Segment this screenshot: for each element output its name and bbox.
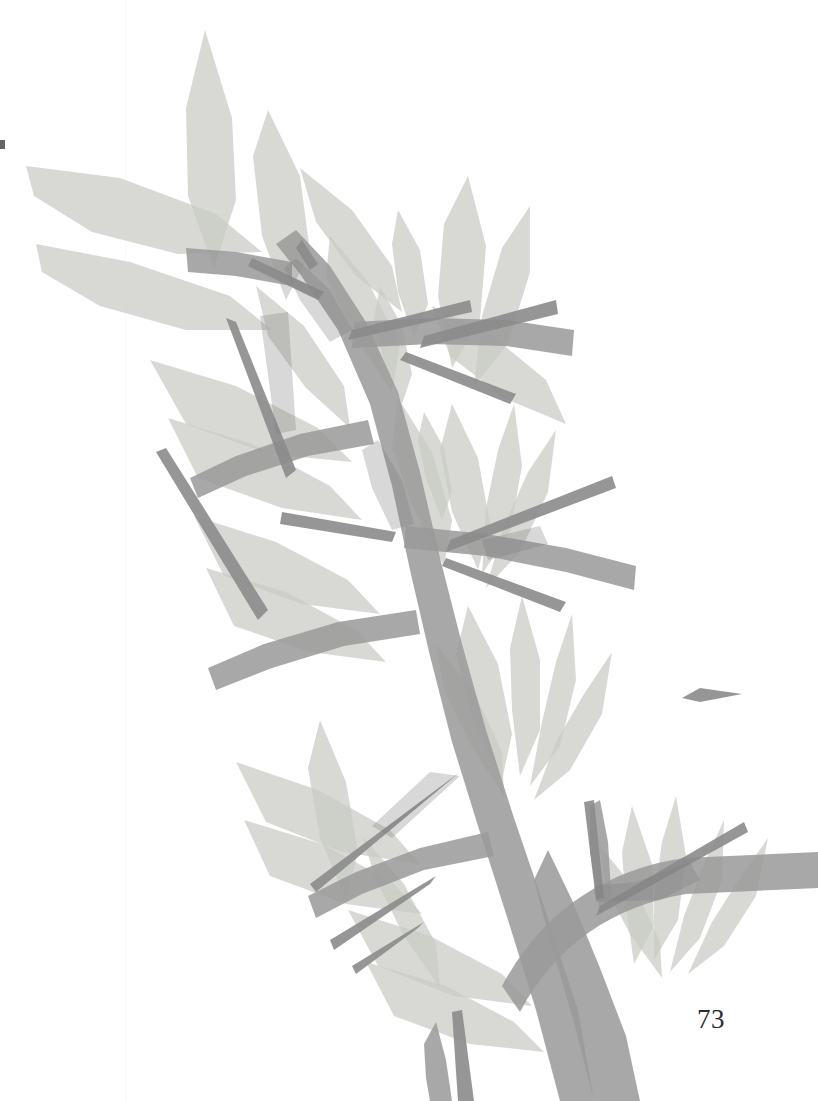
overlap-accent (372, 772, 460, 838)
leaf (510, 596, 540, 776)
thorn (280, 512, 396, 542)
branch-illustration (0, 0, 818, 1101)
page-number: 73 (697, 1006, 725, 1033)
scan-artifact-speck (0, 140, 5, 149)
scanned-page: 73 (0, 0, 818, 1101)
